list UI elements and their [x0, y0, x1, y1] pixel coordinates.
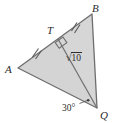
vertex-label-q: Q	[100, 110, 108, 121]
radicand-value: 10	[71, 52, 82, 63]
geometry-figure: A B T Q 30° √10	[0, 0, 114, 123]
angle-measure-label-30: 30°	[62, 104, 75, 114]
vertex-label-a: A	[5, 64, 12, 75]
segment-length-label-tq: √10	[66, 53, 82, 64]
vertex-label-t: T	[47, 25, 53, 36]
vertex-label-b: B	[92, 3, 99, 14]
angle-dot-at-Q	[87, 99, 90, 102]
geometry-canvas	[0, 0, 114, 123]
